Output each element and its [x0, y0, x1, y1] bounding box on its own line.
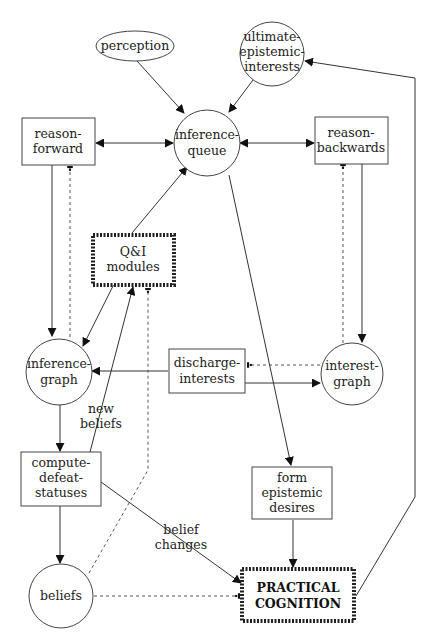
edge-qi-to-inference-queue — [132, 167, 187, 233]
beliefs-label: beliefs — [40, 588, 82, 603]
reason-backwards-line2: backwards — [317, 140, 386, 155]
qi-modules-line2: modules — [106, 259, 159, 274]
form-desires-line1: form — [277, 470, 307, 485]
form-desires-line2: epistemic — [261, 485, 322, 500]
node-ultimate-epistemic-interests: ultimate- epistemic- interests — [239, 22, 304, 86]
inference-queue-line2: queue — [188, 143, 227, 158]
qi-modules-line1: Q&I — [120, 244, 146, 259]
architecture-diagram: perception ultimate- epistemic- interest… — [0, 0, 434, 643]
interest-graph-line1: interest- — [325, 358, 379, 373]
edge-label-new-beliefs: new beliefs — [80, 401, 122, 431]
compute-defeat-line1: compute- — [31, 455, 90, 470]
belief-changes-line1: belief — [163, 522, 200, 537]
node-reason-backwards: reason- backwards — [315, 117, 388, 164]
edge-inference-queue-to-form-desires — [229, 175, 291, 465]
inference-queue-line1: inference- — [175, 127, 239, 142]
edge-qi-to-inference-graph — [83, 284, 114, 346]
belief-changes-line2: changes — [155, 537, 207, 552]
form-desires-line3: desires — [269, 500, 315, 515]
compute-defeat-line3: statuses — [35, 485, 87, 500]
practical-cognition-line2: COGNITION — [255, 596, 341, 611]
edge-label-belief-changes: belief changes — [155, 522, 207, 552]
new-beliefs-line2: beliefs — [80, 416, 122, 431]
discharge-interests-line2: interests — [179, 371, 235, 386]
node-practical-cognition: PRACTICAL COGNITION — [242, 569, 354, 621]
ultimate-label-line2: epistemic- — [239, 44, 304, 59]
new-beliefs-line1: new — [88, 401, 114, 416]
node-perception: perception — [96, 31, 174, 61]
reason-backwards-line1: reason- — [327, 125, 374, 140]
ultimate-label-line1: ultimate- — [243, 29, 300, 44]
practical-cognition-line1: PRACTICAL — [256, 580, 339, 595]
perception-label: perception — [101, 38, 169, 53]
compute-defeat-line2: defeat- — [39, 470, 83, 485]
node-discharge-interests: discharge- interests — [169, 349, 245, 393]
inference-graph-line2: graph — [40, 372, 77, 387]
node-inference-graph: inference- graph — [26, 339, 92, 405]
reason-forward-line2: forward — [33, 141, 83, 156]
inference-graph-line1: inference- — [27, 356, 91, 371]
node-interest-graph: interest- graph — [321, 343, 383, 405]
interest-graph-line2: graph — [333, 374, 370, 389]
node-beliefs: beliefs — [29, 564, 93, 628]
node-inference-queue: inference- queue — [174, 110, 240, 176]
ultimate-label-line3: interests — [244, 59, 300, 74]
reason-forward-line1: reason- — [34, 126, 81, 141]
node-qi-modules: Q&I modules — [93, 235, 174, 285]
edge-perception-to-inference-queue — [137, 61, 184, 113]
node-form-epistemic-desires: form epistemic desires — [252, 467, 332, 519]
discharge-interests-line1: discharge- — [174, 355, 241, 370]
edge-ultimate-to-inference-queue — [229, 80, 253, 112]
node-compute-defeat-statuses: compute- defeat- statuses — [21, 452, 101, 506]
node-reason-forward: reason- forward — [22, 118, 95, 165]
